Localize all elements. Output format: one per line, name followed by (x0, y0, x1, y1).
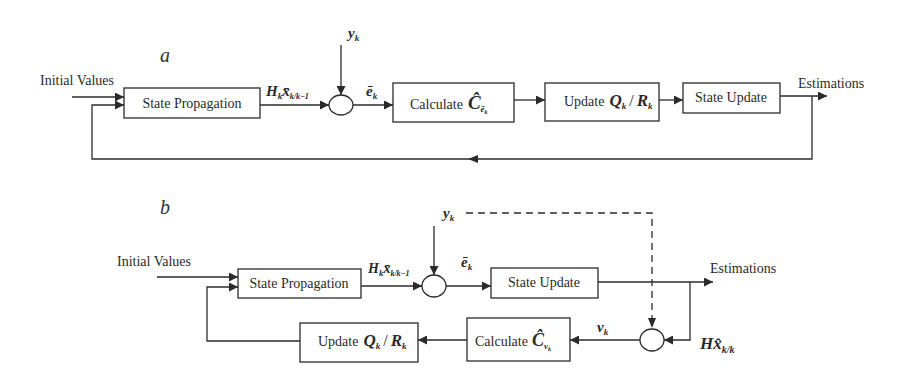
summing-junction-a (329, 95, 353, 115)
update-qr-label-a: UpdateQk/Rk (564, 91, 653, 111)
diagram-b: b Initial Values State Propagation Hkx̄k… (117, 196, 776, 362)
innovation-label-b: ēk (461, 254, 473, 272)
panel-label-a: a (160, 44, 170, 66)
estimate-branch-b (664, 282, 690, 340)
innovation-label-a: ēk (366, 83, 378, 101)
state-propagation-label-b: State Propagation (249, 276, 348, 291)
diagram-a: a Initial Values State Propagation Hkx̄k… (40, 25, 864, 163)
estimated-measurement-label-b: Hx̂k/k (699, 334, 735, 355)
state-update-label-b: State Update (508, 275, 580, 290)
estimations-label-b: Estimations (710, 261, 776, 276)
panel-label-b: b (160, 196, 170, 218)
estimations-label-a: Estimations (798, 76, 864, 91)
summing-junction-lower-b (640, 329, 664, 351)
initial-values-label-a: Initial Values (40, 73, 114, 88)
adaptive-kalman-diagram: a Initial Values State Propagation Hkx̄k… (0, 0, 913, 377)
calculate-covariance-label-b: CalculateĈνk (475, 329, 551, 352)
dashed-measurement-path-b (466, 213, 652, 320)
dashed-arrowhead-b (648, 318, 656, 328)
feedback-loop-b (207, 287, 300, 341)
feedback-arrowhead-a (468, 155, 478, 163)
predicted-measurement-label-b: Hkx̄k/k−1 (367, 261, 409, 278)
residual-label-b: νk (597, 319, 609, 337)
measurement-label-b: yk (441, 205, 455, 223)
initial-values-label-b: Initial Values (117, 254, 191, 269)
state-update-label-a: State Update (695, 90, 767, 105)
predicted-measurement-label-a: Hkx̄k/k−1 (265, 83, 309, 101)
calculate-covariance-label-a: CalculateĈēk (410, 92, 488, 115)
update-qr-label-b: UpdateQk/Rk (318, 331, 407, 351)
state-propagation-label-a: State Propagation (142, 96, 241, 111)
measurement-label-a: yk (346, 25, 360, 43)
summing-junction-upper-b (422, 275, 446, 297)
